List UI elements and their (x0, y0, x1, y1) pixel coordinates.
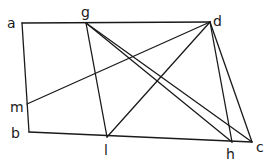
segment-a-d (22, 22, 210, 23)
segment-a-b (22, 23, 29, 132)
segment-d-c (210, 22, 252, 142)
label-a: a (7, 15, 16, 31)
segment-d-l (107, 22, 210, 137)
label-c: c (256, 139, 264, 155)
label-d: d (213, 13, 222, 29)
label-g: g (81, 4, 90, 20)
label-b: b (11, 125, 20, 141)
geometry-diagram: a g d m b l h c (0, 0, 271, 161)
segment-g-l (86, 23, 107, 137)
label-l: l (104, 142, 108, 158)
label-m: m (10, 99, 24, 115)
segment-g-h (86, 23, 232, 142)
segment-b-c (29, 132, 252, 142)
label-h: h (226, 146, 235, 161)
segment-d-h (210, 22, 232, 142)
